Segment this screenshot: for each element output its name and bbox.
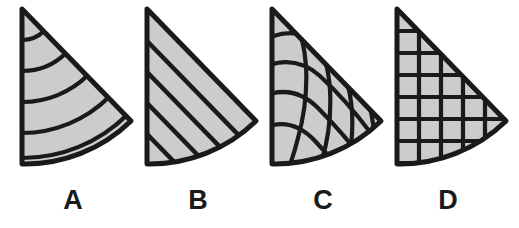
- figure-label-c: C: [258, 183, 388, 217]
- figure-option-a[interactable]: A: [8, 0, 138, 228]
- figure-option-c[interactable]: C: [258, 0, 388, 228]
- figure-option-b[interactable]: B: [133, 0, 263, 228]
- figure-panel: A B: [0, 0, 519, 228]
- figure-label-b: B: [133, 183, 263, 217]
- shape-d-square-grid: [383, 0, 513, 185]
- shape-a-concentric-arcs: [8, 0, 138, 185]
- figure-label-d: D: [383, 183, 513, 217]
- figure-label-a: A: [8, 183, 138, 217]
- shape-b-parallel-diagonal-stripes: [133, 0, 263, 185]
- shape-c-curvilinear-mesh: [258, 0, 388, 185]
- figure-option-d[interactable]: D: [383, 0, 513, 228]
